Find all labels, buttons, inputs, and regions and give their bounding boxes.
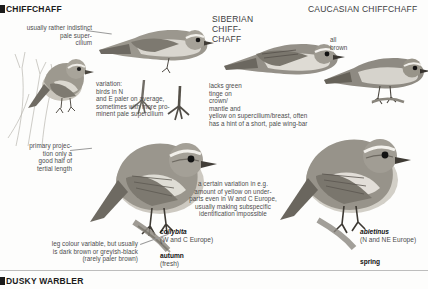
season-name-autumn: autumn: [160, 252, 184, 260]
subspecies-label-abietinus: abietinus (N and NE Europe): [360, 228, 416, 244]
subspecies-region-collybita: (W and C Europe): [160, 236, 213, 244]
subspecies-region-abietinus: (N and NE Europe): [360, 236, 416, 244]
season-qualifier-autumn: (fresh): [160, 260, 184, 268]
bird-illustration-collybita-reeds: [6, 38, 106, 148]
heading-chiffchaff-label: CHIFFCHAFF: [6, 4, 62, 14]
season-name-spring: spring: [360, 258, 380, 266]
heading-caucasian-chiffchaff: CAUCASIAN CHIFFCHAFF: [308, 4, 426, 14]
heading-chiffchaff: CHIFFCHAFF: [6, 4, 126, 14]
subspecies-label-collybita: collybita (W and C Europe): [160, 228, 213, 244]
heading-siberian-chiffchaff: SIBERIAN CHIFF- CHAFF: [212, 4, 282, 44]
heading-siberian-chiffchaff-label: SIBERIAN CHIFF- CHAFF: [212, 14, 253, 44]
heading-bullet-icon: [0, 5, 5, 13]
note-all-brown: all brown: [330, 36, 370, 51]
subspecies-latin-collybita: collybita: [160, 228, 213, 236]
heading-dusky-warbler: DUSKY WARBLER: [6, 276, 166, 286]
bird-illustration-collybita-upper: [95, 14, 215, 84]
field-guide-plate: CHIFFCHAFF SIBERIAN CHIFF- CHAFF CAUCASI…: [0, 0, 428, 289]
note-lacks-green-tinge: lacks green tinge on crown/ mantle and y…: [209, 82, 349, 128]
heading-dusky-warbler-label: DUSKY WARBLER: [6, 276, 84, 286]
heading-bullet-icon-dusky: [0, 277, 5, 285]
note-pale-supercilium: usually rather indistinct pale super- ci…: [0, 24, 92, 47]
heading-caucasian-chiffchaff-label: CAUCASIAN CHIFFCHAFF: [308, 4, 417, 14]
section-divider: [0, 270, 428, 271]
leader-line-primary-projection: [70, 148, 92, 151]
season-label-spring: spring: [360, 258, 380, 266]
note-variation-north-east: variation: birds in N and E paler on ave…: [96, 80, 202, 118]
season-label-autumn: autumn (fresh): [160, 252, 184, 268]
subspecies-latin-abietinus: abietinus: [360, 228, 416, 236]
note-primary-projection: primary projec- tion only a good half of…: [0, 142, 72, 172]
note-certain-variation: a certain variation in e.g. amount of ye…: [172, 180, 294, 218]
note-leg-colour: leg colour variable, but usually is dark…: [6, 240, 138, 263]
